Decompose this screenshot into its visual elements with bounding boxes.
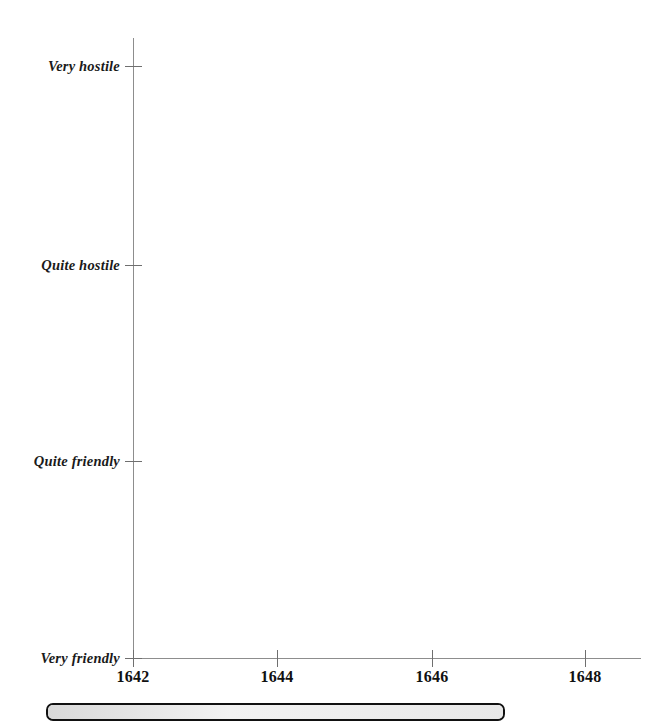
y-tick-mark [125, 461, 142, 462]
y-tick-label-wrap: Very friendly [0, 650, 120, 668]
y-tick-label: Very hostile [48, 58, 120, 75]
y-tick-label-wrap: Very hostile [0, 58, 120, 76]
x-tick-mark [432, 650, 433, 667]
x-axis-line [133, 658, 641, 659]
y-tick-label: Very friendly [40, 650, 120, 667]
scrollbar-thumb[interactable] [48, 705, 503, 719]
chart-plot-area: Very hostile Quite hostile Quite friendl… [0, 0, 657, 690]
y-tick-label-wrap: Quite friendly [0, 453, 120, 471]
x-tick-label: 1646 [387, 668, 477, 686]
y-tick-label-wrap: Quite hostile [0, 257, 120, 275]
y-tick-label: Quite friendly [34, 453, 120, 470]
x-tick-mark [277, 650, 278, 667]
y-tick-mark [125, 66, 142, 67]
x-tick-mark [133, 650, 134, 667]
x-tick-label: 1642 [88, 668, 178, 686]
horizontal-scrollbar[interactable] [46, 703, 505, 721]
y-axis-line [133, 38, 134, 659]
x-tick-label: 1644 [232, 668, 322, 686]
x-tick-mark [585, 650, 586, 667]
x-tick-label: 1648 [540, 668, 630, 686]
y-tick-label: Quite hostile [41, 257, 120, 274]
y-tick-mark [125, 265, 142, 266]
